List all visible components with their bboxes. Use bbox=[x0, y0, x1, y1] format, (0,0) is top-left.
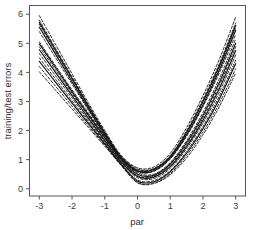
x-tick-label-1: 1 bbox=[168, 201, 173, 211]
y-tick-label-1: 1 bbox=[18, 155, 23, 165]
chart-root: 0123456 -3-2-10123 par training/test err… bbox=[0, 0, 253, 230]
y-tick-label-5: 5 bbox=[18, 39, 23, 49]
chart-figure: 0123456 -3-2-10123 par training/test err… bbox=[0, 0, 253, 230]
y-tick-label-4: 4 bbox=[18, 68, 23, 78]
x-axis-title: par bbox=[130, 216, 144, 227]
x-tick-label--2: -2 bbox=[68, 201, 76, 211]
y-tick-label-6: 6 bbox=[18, 9, 23, 19]
x-tick-label--1: -1 bbox=[101, 201, 109, 211]
y-tick-label-0: 0 bbox=[18, 184, 23, 194]
x-tick-label--3: -3 bbox=[35, 201, 43, 211]
x-tick-label-2: 2 bbox=[200, 201, 205, 211]
x-tick-label-3: 3 bbox=[233, 201, 238, 211]
plot-canvas: 0123456 -3-2-10123 par training/test err… bbox=[0, 0, 253, 230]
y-tick-label-3: 3 bbox=[18, 97, 23, 107]
y-tick-label-2: 2 bbox=[18, 126, 23, 136]
y-axis-title: training/test errors bbox=[2, 62, 13, 139]
x-tick-label-0: 0 bbox=[135, 201, 140, 211]
